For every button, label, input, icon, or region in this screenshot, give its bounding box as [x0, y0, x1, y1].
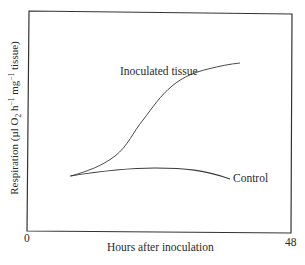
- x-axis-title: Hours after inoculation: [107, 241, 214, 253]
- x-tick-48: 48: [285, 236, 297, 248]
- series-label-control: Control: [233, 172, 268, 184]
- y-axis-title-text: Respiration (µl O: [8, 118, 20, 195]
- y-axis-title-text: tissue): [8, 41, 20, 72]
- x-tick-0: 0: [24, 232, 30, 244]
- y-axis-title-text: mg: [8, 81, 20, 98]
- inoculated-tissue-curve: [71, 63, 240, 176]
- y-axis-title-subscript: 2: [14, 114, 23, 118]
- y-axis-title-superscript: −1: [7, 98, 16, 106]
- y-axis-title: Respiration (µl O2 h−1 mg−1 tissue): [7, 41, 24, 194]
- control-curve: [70, 168, 230, 179]
- series-label-inoculated: Inoculated tissue: [120, 65, 198, 77]
- y-axis-title-text: h: [8, 106, 20, 114]
- plot-frame: [27, 11, 292, 233]
- y-axis-title-superscript: −1: [7, 73, 16, 81]
- chart-canvas: [0, 0, 305, 265]
